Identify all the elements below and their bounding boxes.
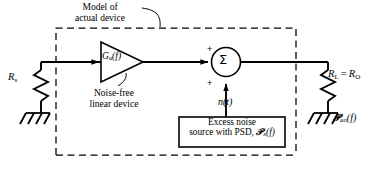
noise-signal-label: n(t) bbox=[218, 96, 232, 107]
noise-source-box-line2-prefix: source with PSD, bbox=[189, 127, 256, 137]
diagram-canvas: Model of actual device Noise-free linear… bbox=[0, 0, 374, 174]
summer-sigma-symbol: Σ bbox=[219, 53, 227, 68]
noise-source-box-line1: Excess noise bbox=[182, 117, 282, 127]
model-boundary-label-line1: Model of bbox=[58, 2, 142, 13]
source-resistor-subscript: s bbox=[14, 76, 17, 84]
amplifier-label-leader-line bbox=[118, 73, 126, 86]
source-resistor-label: Rs bbox=[8, 71, 17, 84]
ground-symbol-input bbox=[20, 113, 50, 124]
amplifier-description-line2: linear device bbox=[74, 99, 154, 110]
model-label-leader-line bbox=[142, 8, 160, 27]
load-resistor-subscript-left: L bbox=[334, 73, 338, 81]
noise-source-box-label: Excess noise source with PSD, 𝒫x(f) bbox=[182, 117, 282, 138]
model-boundary-label: Model of actual device bbox=[58, 2, 142, 23]
model-boundary-label-line2: actual device bbox=[58, 13, 142, 24]
load-resistor-equals: = bbox=[341, 68, 347, 79]
noise-source-box-line2: source with PSD, 𝒫x(f) bbox=[182, 127, 282, 137]
summer-plus-sign-top: + bbox=[207, 44, 212, 54]
amplifier-description-label: Noise-free linear device bbox=[74, 88, 154, 109]
amplifier-description-line1: Noise-free bbox=[74, 88, 154, 99]
output-psd-symbol: 𝒫 bbox=[333, 112, 340, 123]
output-psd-subscript: ao bbox=[340, 116, 347, 123]
amplifier-gain-symbol: G bbox=[102, 51, 109, 61]
amplifier-triangle bbox=[101, 42, 143, 82]
amplifier-gain-arg: (f) bbox=[112, 51, 121, 61]
output-wire bbox=[241, 62, 329, 70]
load-resistor-subscript-right: O bbox=[355, 73, 360, 81]
load-resistor-label: RL=RO bbox=[328, 68, 360, 81]
summer-plus-sign-bottom: + bbox=[207, 78, 212, 88]
amplifier-gain-label: Ga(f) bbox=[102, 51, 121, 62]
noise-source-psd-arg: (f) bbox=[266, 127, 275, 137]
output-psd-label: 𝒫ao(f) bbox=[333, 112, 356, 124]
circuit-diagram-svg bbox=[0, 0, 374, 174]
output-psd-arg: (f) bbox=[347, 112, 356, 123]
